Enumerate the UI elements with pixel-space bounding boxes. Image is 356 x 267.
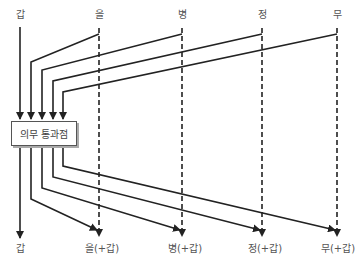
bottom-label-byeong: 병(+갑) (168, 244, 202, 254)
bottom-label-mu: 무(+갑) (321, 244, 355, 254)
top-label-jeong: 정 (258, 10, 267, 20)
top-label-gap: 갑 (16, 10, 25, 20)
box-label: 의무 통과점 (20, 126, 68, 141)
top-label-byeong: 병 (178, 10, 187, 20)
top-label-mu: 무 (333, 10, 342, 20)
bottom-label-gap: 갑 (16, 244, 25, 254)
top-label-eul: 을 (95, 10, 104, 20)
bottom-label-jeong: 정(+갑) (248, 244, 282, 254)
bottom-label-eul: 을(+갑) (85, 244, 119, 254)
obligatory-passage-point-box: 의무 통과점 (11, 121, 77, 146)
